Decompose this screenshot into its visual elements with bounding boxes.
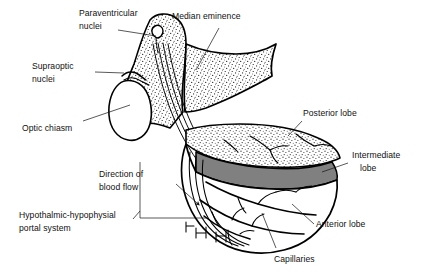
label-paraventricular-nuclei-line2: nuclei (79, 21, 102, 31)
median-eminence-region (184, 44, 276, 112)
label-intermediate-lobe-line1: Intermediate (352, 150, 401, 160)
label-intermediate-lobe: Intermediate lobe (352, 150, 401, 173)
label-posterior-lobe: Posterior lobe (303, 108, 357, 118)
label-intermediate-lobe-line2: lobe (360, 163, 377, 173)
label-direction-of-blood-flow: Direction of blood flow (99, 169, 144, 192)
leader-portal-system-stub (133, 211, 140, 219)
label-capillaries-line1: Capillaries (274, 254, 315, 264)
label-paraventricular-nuclei: Paraventricular nuclei (79, 8, 138, 31)
label-anterior-lobe-line1: Anterior lobe (316, 219, 366, 229)
hypothalamus-pituitary-diagram: Paraventricular nuclei Median eminence S… (0, 0, 421, 280)
optic-chiasm-region (109, 81, 152, 141)
label-portal-system-line2: portal system (19, 223, 71, 233)
label-portal-system-line1: Hypothalmic-hypophysial (19, 210, 116, 220)
label-hypothalamic-hypophysial-portal-system: Hypothalmic-hypophysial portal system (19, 210, 116, 233)
leader-supraoptic (95, 72, 124, 73)
label-direction-of-blood-flow-line1: Direction of (99, 169, 144, 179)
label-anterior-lobe: Anterior lobe (316, 219, 366, 229)
label-paraventricular-nuclei-line1: Paraventricular (79, 8, 138, 18)
paraventricular-nucleus-shape (152, 25, 163, 38)
label-median-eminence: Median eminence (172, 11, 241, 21)
label-posterior-lobe-line1: Posterior lobe (303, 108, 357, 118)
optic-chiasm-shape (109, 81, 152, 141)
label-direction-of-blood-flow-line2: blood flow (99, 182, 139, 192)
label-supraoptic-nuclei-line1: Supraoptic (32, 61, 74, 71)
label-supraoptic-nuclei-line2: nuclei (32, 74, 55, 84)
median-eminence-shape (184, 44, 276, 112)
label-optic-chiasm-line1: Optic chiasm (22, 123, 72, 133)
label-capillaries: Capillaries (274, 254, 315, 264)
label-supraoptic-nuclei: Supraoptic nuclei (32, 61, 74, 84)
label-optic-chiasm: Optic chiasm (22, 123, 72, 133)
label-median-eminence-line1: Median eminence (172, 11, 241, 21)
